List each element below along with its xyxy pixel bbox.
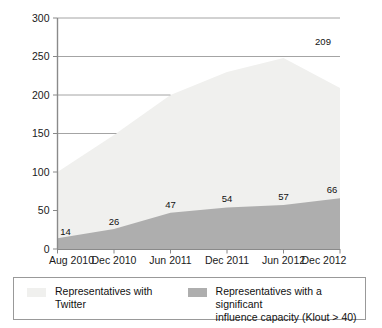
y-tick-label: 250	[32, 50, 50, 62]
x-tick-label: Jun 2011	[149, 254, 192, 266]
legend-swatch-twitter-icon	[27, 288, 46, 297]
x-tick-label: Aug 2010	[49, 254, 94, 266]
data-label-twitter-end: 209	[315, 36, 331, 47]
legend-swatch-klout-icon	[188, 288, 207, 297]
area-chart: 300250200150100500 Aug 2010Dec 2010Jun 2…	[0, 0, 382, 328]
chart-legend: Representatives with Twitter Representat…	[13, 277, 366, 320]
x-tick-label: Dec 2012	[302, 254, 347, 266]
data-label-klout: 66	[327, 184, 338, 195]
legend-entry-twitter[interactable]: Representatives with Twitter	[27, 285, 174, 311]
y-tick-label: 50	[38, 204, 50, 216]
x-tick-label: Dec 2010	[92, 254, 137, 266]
data-label-klout: 57	[278, 191, 289, 202]
y-tick-label: 200	[32, 89, 50, 101]
legend-label-twitter: Representatives with Twitter	[55, 285, 174, 311]
data-label-klout: 14	[60, 226, 71, 237]
legend-entry-klout[interactable]: Representatives with a significant influ…	[188, 285, 357, 324]
data-label-klout: 54	[222, 193, 233, 204]
y-tick-label: 100	[32, 166, 50, 178]
x-axis-ticks: Aug 2010Dec 2010Jun 2011Dec 2011Jun 2012…	[49, 249, 347, 266]
chart-canvas: 300250200150100500 Aug 2010Dec 2010Jun 2…	[0, 0, 382, 280]
x-tick-label: Jun 2012	[262, 254, 305, 266]
x-tick-label: Dec 2011	[205, 254, 249, 266]
data-label-klout: 47	[165, 199, 176, 210]
y-tick-label: 150	[32, 127, 50, 139]
data-label-klout: 26	[109, 216, 120, 227]
y-tick-label: 300	[32, 12, 50, 24]
y-axis-ticks: 300250200150100500	[32, 12, 58, 255]
y-tick-label: 0	[44, 243, 50, 255]
legend-label-klout: Representatives with a significant influ…	[216, 285, 357, 324]
